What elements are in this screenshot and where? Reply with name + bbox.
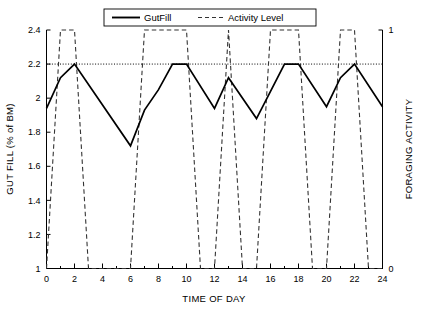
legend-label-activity: Activity Level [228,12,283,23]
chart-figure: GutFill Activity Level 11.21.41.61.822.2… [0,0,423,313]
y-axis-ticks: 11.21.41.61.822.22.4 [28,25,51,274]
y-tick-label: 2.2 [28,59,41,69]
x-tick-label: 14 [237,274,247,284]
x-tick-label: 12 [209,274,219,284]
y2-axis-ticks: 01 [379,25,394,274]
chart-legend: GutFill Activity Level [104,9,316,26]
x-tick-label: 2 [72,274,77,284]
y-tick-label: 2 [35,93,40,103]
y-axis-title: GUT FILL (% of BM) [4,103,15,194]
y-tick-label: 1.4 [28,196,41,206]
x-tick-label: 24 [377,274,387,284]
series-line-activity [47,30,383,269]
x-tick-label: 0 [44,274,49,284]
x-tick-label: 18 [293,274,303,284]
x-tick-label: 16 [265,274,275,284]
y-tick-label: 1 [35,264,40,274]
x-tick-label: 20 [321,274,331,284]
x-tick-label: 8 [156,274,161,284]
x-tick-label: 4 [100,274,105,284]
y-tick-label: 2.4 [28,25,41,35]
y-tick-label: 1.8 [28,127,41,137]
x-axis-ticks: 024681012141618202224 [44,264,388,284]
y-tick-label: 1.6 [28,161,41,171]
y2-tick-label: 1 [389,25,394,35]
plot-frame [47,30,384,269]
legend-label-gutfill: GutFill [144,12,171,23]
series-activity-level [47,30,383,269]
chart-canvas: GutFill Activity Level 11.21.41.61.822.2… [0,0,423,313]
x-tick-label: 10 [181,274,191,284]
series-line-gutfill [47,64,383,146]
x-tick-label: 6 [128,274,133,284]
x-axis-title: TIME OF DAY [182,293,246,304]
series-gutfill [47,64,383,146]
y2-tick-label: 0 [389,264,394,274]
x-tick-label: 22 [349,274,359,284]
y-tick-label: 1.2 [28,230,41,240]
y2-axis-title: FORAGING ACTIVITY [403,98,414,199]
